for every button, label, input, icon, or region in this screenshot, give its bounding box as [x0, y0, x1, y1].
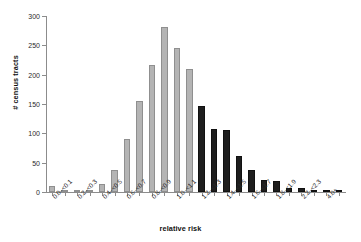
- bar: [174, 48, 180, 192]
- x-tick: [115, 192, 116, 196]
- x-axis-title: relative risk: [0, 224, 361, 233]
- x-tick: [314, 192, 315, 196]
- x-tick: [239, 192, 240, 196]
- bar: [223, 130, 229, 192]
- bar: [186, 69, 192, 192]
- x-tick: [289, 192, 290, 196]
- y-tick-label: 250: [28, 42, 40, 49]
- x-tick: [264, 192, 265, 196]
- histogram-chart: # census tracts 050100150200250300 0.0–<…: [0, 0, 361, 242]
- x-tick: [139, 192, 140, 196]
- y-tick-label: 150: [28, 101, 40, 108]
- bar: [149, 65, 155, 192]
- y-tick: [42, 192, 46, 193]
- bar: [161, 27, 167, 192]
- bar-series: [46, 16, 345, 192]
- y-tick-label: 300: [28, 13, 40, 20]
- x-tick: [214, 192, 215, 196]
- bar: [198, 106, 204, 192]
- plot-area: 050100150200250300: [46, 16, 345, 192]
- y-axis-title: # census tracts: [11, 28, 20, 138]
- x-tick: [90, 192, 91, 196]
- x-tick: [189, 192, 190, 196]
- x-tick: [164, 192, 165, 196]
- bar: [248, 170, 254, 192]
- y-tick-label: 200: [28, 71, 40, 78]
- y-tick-label: 50: [32, 159, 40, 166]
- y-tick-label: 0: [36, 189, 40, 196]
- bar: [124, 139, 130, 192]
- x-tick: [65, 192, 66, 196]
- y-tick-label: 100: [28, 130, 40, 137]
- x-tick: [339, 192, 340, 196]
